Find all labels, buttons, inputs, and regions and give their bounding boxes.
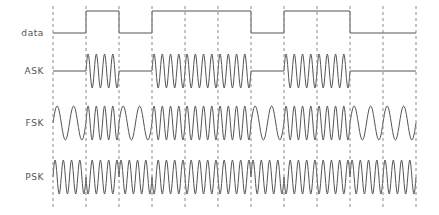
psk-segment-bit-10 — [383, 160, 416, 194]
data-waveform-trace — [53, 11, 416, 33]
ask-burst-bit-8 — [317, 54, 350, 88]
psk-segment-bit-7 — [284, 160, 317, 194]
psk-segment-bit-1 — [86, 160, 119, 194]
psk-segment-bit-0 — [53, 160, 86, 194]
psk-segment-bit-9 — [350, 160, 383, 194]
data-square-wave — [53, 11, 416, 33]
modulation-waveform-figure: data ASK FSK PSK — [0, 0, 439, 215]
psk-segment-bit-2 — [119, 160, 152, 194]
fsk-waveform-trace — [53, 106, 416, 140]
ask-burst-bit-5 — [218, 54, 251, 88]
ask-burst-bit-4 — [185, 54, 218, 88]
psk-segment-bit-5 — [218, 160, 251, 194]
ask-waveform-trace — [53, 54, 416, 88]
fsk-continuous-wave — [53, 106, 416, 140]
psk-segment-bit-6 — [251, 160, 284, 194]
psk-segment-bit-3 — [152, 160, 185, 194]
ask-burst-bit-3 — [152, 54, 185, 88]
psk-waveform-trace — [53, 160, 416, 194]
psk-segment-bit-4 — [185, 160, 218, 194]
ask-burst-bit-7 — [284, 54, 317, 88]
waveform-plot — [0, 0, 439, 215]
psk-segment-bit-8 — [317, 160, 350, 194]
ask-burst-bit-1 — [86, 54, 119, 88]
